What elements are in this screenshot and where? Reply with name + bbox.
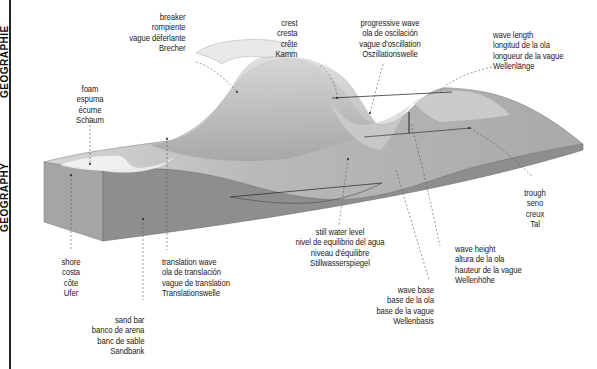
label-sand-bar: sand barbanco de arenabanc de sableSandb… [91, 315, 144, 357]
label-trough: troughsenocreuxTal [517, 188, 553, 230]
label-translation-wave: translation waveola de translaciónvague … [162, 257, 230, 299]
label-wave-length: wave lengthlongitud de la olalongueur de… [493, 30, 563, 72]
label-wave-height: wave heightaltura de la olahauteur de la… [455, 244, 522, 286]
label-shore: shorecostacôteUfer [57, 257, 86, 299]
label-wave-base: wave basebase de la olabase de la vagueW… [377, 285, 434, 327]
leader-progressive-wave [370, 64, 383, 113]
label-breaker: breakerrompientevague déferlanteBrecher [129, 12, 185, 54]
label-crest: crestcrestacrêteKamm [275, 18, 297, 60]
leader-breaker [196, 62, 237, 92]
label-still-water-level: still water levelnivel de equilibrio del… [291, 227, 390, 269]
label-foam: foamespumaécumeSchaum [63, 84, 117, 126]
seabed-block-side [44, 162, 103, 241]
leader-wave-length [440, 67, 492, 91]
label-progressive-wave: progressive waveola de oscilaciónvague d… [345, 18, 435, 60]
